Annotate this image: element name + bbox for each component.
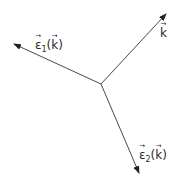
vector-arrow-icon: → [35,33,41,40]
epsilon1-label: →ε1(→k) [35,39,63,51]
vector-arrow-icon: → [161,21,167,28]
epsilon2-symbol: →ε [139,149,146,161]
close-paren: ) [58,38,63,52]
epsilon-glyph: ε [35,38,42,52]
k-glyph: k [160,26,167,40]
k-symbol: →k [51,39,58,51]
k-glyph: k [51,38,58,52]
epsilon2-label: →ε2(→k) [139,149,167,161]
vector-arrow-icon: → [156,143,162,150]
close-paren: ) [162,148,167,162]
k-label: →k [160,27,167,39]
epsilon1-symbol: →ε [35,39,42,51]
epsilon-glyph: ε [139,148,146,162]
vector-arrow-icon: → [52,33,58,40]
k-symbol: →k [160,27,167,39]
k-symbol: →k [155,149,162,161]
subscript: 2 [146,155,151,164]
vector-arrow-icon: → [139,143,145,150]
subscript: 1 [42,45,47,54]
k-vector-arrow [101,14,166,84]
k-glyph: k [155,148,162,162]
epsilon2-vector-arrow [101,84,139,173]
